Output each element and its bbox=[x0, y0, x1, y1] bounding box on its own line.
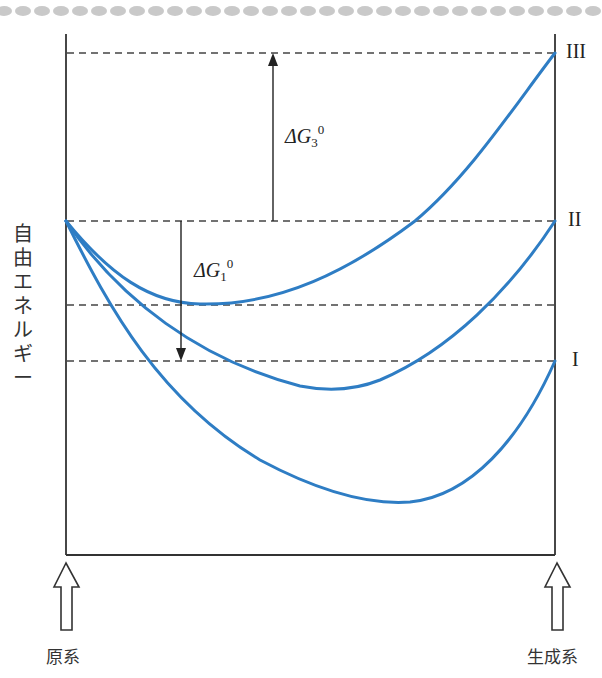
y-axis-char: ー bbox=[12, 366, 34, 390]
delta-g1-arrow bbox=[176, 221, 186, 361]
level-label-III: III bbox=[566, 40, 586, 63]
start-arrow-icon bbox=[54, 563, 79, 630]
delta-g1-superscript: 0 bbox=[227, 256, 234, 271]
y-axis-char: ル bbox=[12, 318, 34, 342]
y-axis-char: ギ bbox=[12, 342, 34, 366]
delta-g3-label: ΔG30 bbox=[285, 122, 324, 151]
delta-g1-symbol: ΔG bbox=[194, 259, 220, 281]
level-label-II: II bbox=[568, 208, 581, 231]
delta-g3-subscript: 3 bbox=[311, 135, 318, 150]
y-axis-char: 由 bbox=[12, 246, 34, 270]
end-label: 生成系 bbox=[527, 643, 578, 668]
start-label: 原系 bbox=[46, 643, 80, 668]
delta-g3-symbol: ΔG bbox=[285, 125, 311, 147]
y-axis-char: 自 bbox=[12, 222, 34, 246]
curve-I bbox=[66, 221, 555, 502]
y-axis-label: 自 由 エ ネ ル ギ ー bbox=[12, 222, 34, 390]
free-energy-diagram bbox=[0, 0, 602, 678]
delta-g1-label: ΔG10 bbox=[194, 256, 233, 285]
delta-g3-superscript: 0 bbox=[318, 122, 325, 137]
end-arrow-icon bbox=[545, 563, 570, 630]
y-axis-char: ネ bbox=[12, 294, 34, 318]
level-label-I: I bbox=[572, 348, 579, 371]
curve-III bbox=[66, 53, 555, 304]
y-axis-char: エ bbox=[12, 270, 34, 294]
delta-g3-arrow bbox=[268, 53, 278, 221]
delta-g1-subscript: 1 bbox=[220, 269, 227, 284]
